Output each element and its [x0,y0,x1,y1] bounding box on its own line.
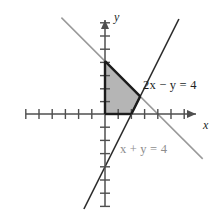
y-axis-arrowhead [101,20,109,29]
line-label-x-plus-y: x + y = 4 [120,142,167,157]
x-axis-arrowhead [187,110,196,118]
x-axis-label: x [203,118,208,133]
coordinate-plane-svg [0,0,220,215]
line-label-2x-minus-y: 2x − y = 4 [143,78,197,93]
graph-figure: 2x − y = 4 x + y = 4 y x [0,0,220,215]
y-axis-label: y [114,10,119,25]
